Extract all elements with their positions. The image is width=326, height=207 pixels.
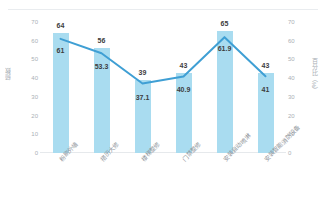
axis-tick-label: 30	[12, 94, 38, 100]
chart-card: 706050403020100 频数 706050403020100 百分比（%…	[0, 0, 326, 207]
axis-tick-label: 0	[288, 150, 314, 156]
line-value-label: 61.9	[205, 45, 245, 53]
line-value-label: 41	[246, 86, 286, 94]
bar-value-label: 39	[123, 69, 163, 77]
line-value-label: 61	[41, 47, 81, 55]
axis-tick-label: 50	[12, 56, 38, 62]
line-value-label: 53.3	[82, 63, 122, 71]
bar-value-label: 56	[82, 37, 122, 45]
left-axis-tick-labels: 706050403020100	[12, 22, 38, 153]
axis-tick-label: 10	[12, 131, 38, 137]
axis-tick-label: 60	[12, 38, 38, 44]
bar-value-label: 64	[41, 22, 81, 30]
bar-value-label: 43	[164, 62, 204, 70]
chart-plot-wrapper: 706050403020100 频数 706050403020100 百分比（%…	[0, 10, 326, 207]
axis-tick-label: 20	[12, 113, 38, 119]
line-value-label: 40.9	[164, 86, 204, 94]
axis-tick-label: 20	[288, 113, 314, 119]
left-axis-title: 频数	[3, 68, 12, 80]
axis-tick-label: 60	[288, 38, 314, 44]
axis-tick-label: 0	[12, 150, 38, 156]
bar-value-label: 43	[246, 62, 286, 70]
axis-tick-label: 30	[288, 94, 314, 100]
card-header	[8, 0, 318, 10]
right-axis-title: 百分比（%）	[310, 58, 319, 93]
axis-tick-label: 70	[288, 19, 314, 25]
axis-tick-label: 70	[12, 19, 38, 25]
line-value-label: 37.1	[123, 94, 163, 102]
axis-tick-label: 40	[12, 75, 38, 81]
bar-value-label: 65	[205, 20, 245, 28]
